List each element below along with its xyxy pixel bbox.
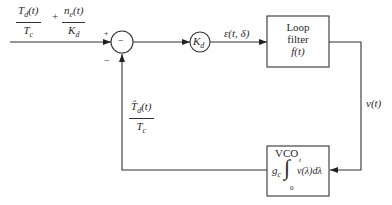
feedback-term: T̂d(t) Tc (129, 100, 154, 137)
feedback-numerator: T̂d(t) (131, 100, 152, 112)
gain-label: Kd (193, 35, 204, 50)
integral-sign-icon: ∫ (284, 155, 290, 181)
vco-lower-limit: 0 (290, 184, 294, 192)
input-term-1: Td(t) Tc (16, 4, 41, 41)
vco-integrand: v(λ)dλ (297, 165, 322, 176)
input-term-2: ne(t) Kd (62, 4, 85, 41)
loop-filter-line-1: Loop (267, 21, 329, 33)
plus-sign: + (104, 29, 109, 38)
filter-output-path (329, 42, 361, 170)
minus-sign: − (104, 55, 110, 66)
input-term-2-denominator: Kd (68, 24, 79, 36)
filter-output-label: v(t) (366, 97, 381, 109)
loop-filter-line-2: filter (267, 33, 329, 45)
vco-upper-limit: t (299, 156, 301, 164)
input-term-1-denominator: Tc (23, 24, 33, 36)
error-signal-label: ε(t, δ) (224, 27, 249, 39)
junction-symbol: − (118, 35, 124, 46)
diagram-canvas (0, 0, 392, 205)
feedback-denominator: Tc (136, 120, 146, 132)
input-term-1-numerator: Td(t) (18, 4, 39, 16)
loop-filter-label: Loop filter f(t) (267, 21, 329, 57)
loop-filter-line-3: f(t) (267, 45, 329, 57)
input-term-2-numerator: ne(t) (64, 4, 83, 16)
vco-gain: gc (272, 164, 281, 179)
input-plus-operator: + (52, 10, 58, 22)
